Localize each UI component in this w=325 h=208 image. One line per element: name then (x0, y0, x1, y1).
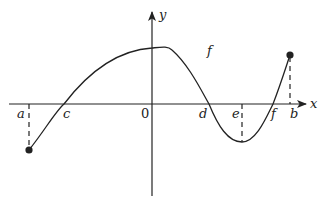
function-graph: y x 0 f a c d e f b (0, 0, 325, 208)
x-marker-b: b (290, 106, 298, 121)
x-axis-label: x (310, 96, 318, 111)
endpoint-dot-a (25, 146, 32, 153)
endpoint-dot-b (286, 51, 293, 58)
origin-label: 0 (141, 106, 149, 121)
x-marker-c: c (63, 106, 71, 121)
y-axis-label: y (158, 7, 167, 22)
x-marker-a: a (17, 106, 25, 121)
curve-label-f: f (206, 43, 214, 58)
x-marker-d: d (199, 106, 207, 121)
x-marker-f: f (270, 106, 278, 121)
function-curve (29, 47, 290, 150)
x-marker-e: e (232, 106, 240, 121)
